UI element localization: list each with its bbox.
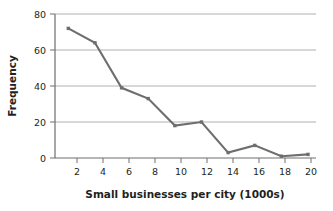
chart-background: [0, 0, 333, 211]
data-point-2: [67, 27, 70, 30]
y-tick-label-0: 0: [40, 153, 46, 164]
x-tick-label-2: 2: [74, 166, 80, 177]
chart-canvas: 80 60 40 20 0 2 4 6 8 10 12 14: [0, 0, 333, 211]
data-point-20: [306, 153, 309, 156]
data-point-12: [200, 120, 203, 123]
x-tick-label-4: 4: [100, 166, 106, 177]
x-tick-label-10: 10: [175, 166, 187, 177]
x-tick-label-20: 20: [305, 166, 317, 177]
x-tick-label-18: 18: [279, 166, 291, 177]
x-tick-label-6: 6: [126, 166, 132, 177]
y-tick-label-20: 20: [34, 117, 46, 128]
y-tick-label-40: 40: [34, 81, 46, 92]
x-tick-label-8: 8: [152, 166, 158, 177]
x-axis-title: Small businesses per city (1000s): [85, 188, 284, 200]
x-tick-label-16: 16: [253, 166, 265, 177]
data-point-4: [93, 41, 96, 44]
y-tick-label-60: 60: [34, 45, 46, 56]
y-tick-label-80: 80: [34, 9, 46, 20]
data-point-18: [280, 155, 283, 158]
x-tick-label-12: 12: [201, 166, 213, 177]
data-point-16: [253, 144, 256, 147]
data-point-14: [226, 151, 229, 154]
data-point-6: [120, 86, 123, 89]
data-point-8: [147, 97, 150, 100]
y-axis-title: Frequency: [6, 55, 18, 117]
x-tick-label-14: 14: [227, 166, 239, 177]
frequency-polygon-chart: 80 60 40 20 0 2 4 6 8 10 12 14: [0, 0, 333, 211]
data-point-10: [173, 124, 176, 127]
